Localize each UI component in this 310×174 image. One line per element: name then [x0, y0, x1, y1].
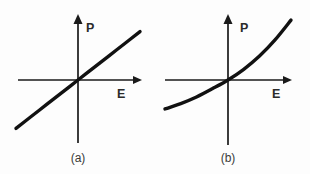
- x-axis-label-e-a: E: [117, 88, 125, 101]
- panel-caption-a: (a): [58, 152, 98, 164]
- up-arrow-axis-icon: [74, 14, 83, 24]
- plot-panel-a: P E (a): [0, 0, 155, 174]
- figure-container: P E (a) P E (b): [0, 0, 310, 174]
- x-axis-label-e-b: E: [272, 88, 280, 101]
- right-arrow-axis-icon: [283, 76, 292, 84]
- panel-caption-b: (b): [208, 152, 248, 164]
- up-arrow-axis-icon: [224, 14, 233, 24]
- right-arrow-axis-icon: [133, 76, 142, 84]
- plot-b-graphic: [155, 0, 310, 174]
- y-axis-label-p-a: P: [86, 22, 94, 35]
- y-axis-label-p-b: P: [240, 22, 248, 35]
- plot-panel-b: P E (b): [155, 0, 310, 174]
- plot-a-graphic: [0, 0, 155, 174]
